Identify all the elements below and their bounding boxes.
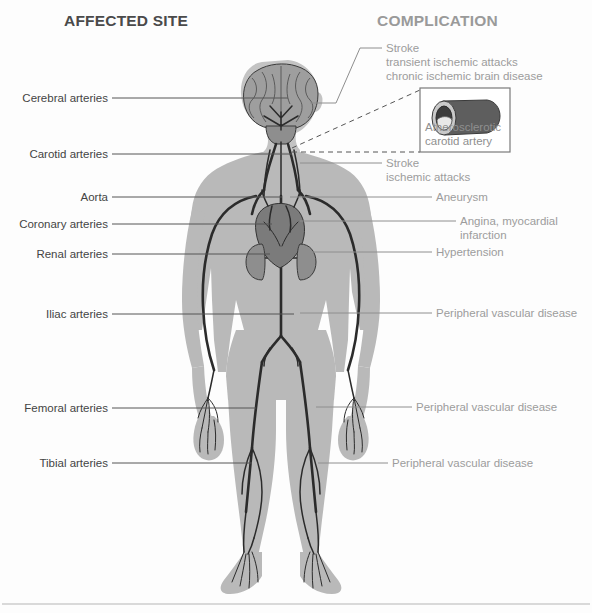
complication-carotid-line2: ischemic attacks — [386, 170, 470, 184]
atherosclerosis-figure: AFFECTED SITE COMPLICATION — [0, 0, 592, 613]
label-femoral-arteries: Femoral arteries — [0, 401, 108, 415]
label-renal-arteries: Renal arteries — [0, 247, 108, 261]
label-coronary-arteries: Coronary arteries — [0, 217, 108, 231]
complication-femoral: Peripheral vascular disease — [416, 400, 557, 414]
brain — [244, 64, 318, 144]
complication-iliac: Peripheral vascular disease — [436, 306, 577, 320]
label-tibial-arteries: Tibial arteries — [0, 456, 108, 470]
label-aorta: Aorta — [0, 190, 108, 204]
complication-coronary-line2: infarction — [460, 228, 507, 242]
complication-renal: Hypertension — [436, 245, 504, 259]
label-cerebral-arteries: Cerebral arteries — [0, 91, 108, 105]
complication-cerebral-line1: Stroke — [386, 41, 419, 55]
complication-aorta: Aneurysm — [436, 190, 488, 204]
complication-cerebral-line2: transient ischemic attacks — [386, 55, 518, 69]
label-iliac-arteries: Iliac arteries — [0, 307, 108, 321]
complication-coronary-line1: Angina, myocardial — [460, 214, 558, 228]
complication-cerebral-line3: chronic ischemic brain disease — [386, 69, 543, 83]
inset-caption-line1: Atherosclerotic — [425, 120, 501, 134]
complication-carotid-line1: Stroke — [386, 156, 419, 170]
label-carotid-arteries: Carotid arteries — [0, 147, 108, 161]
complication-tibial: Peripheral vascular disease — [392, 456, 533, 470]
inset-caption-line2: carotid artery — [425, 134, 492, 148]
